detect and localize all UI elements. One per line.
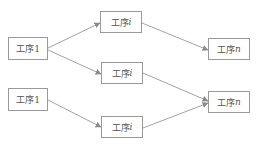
node-label-prefix: 工序 [112,67,130,80]
node-label-suffix: n [235,44,241,54]
arrow-e-to-f [48,100,101,127]
node-label-suffix: i [130,122,133,132]
node-label-suffix: 1 [34,44,40,54]
node-process-n-bottom: 工序n [208,91,250,113]
node-process-n-top: 工序n [208,38,250,60]
node-process-i-bottom: 工序i [101,116,143,138]
node-label-suffix: i [129,17,132,27]
arrow-f-to-g [143,103,208,128]
arrow-d-to-g [143,73,208,101]
node-process-1-bottom: 工序1 [8,88,48,111]
arrow-b-to-c [142,23,208,50]
node-label-prefix: 工序 [112,121,130,134]
node-process-i-top: 工序i [100,11,142,33]
node-label-prefix: 工序 [16,42,34,55]
node-process-1-top: 工序1 [8,37,48,60]
arrow-a-to-b [48,23,100,48]
node-label-prefix: 工序 [217,43,235,56]
node-label-suffix: i [130,68,133,78]
arrow-a-to-d [48,50,101,74]
node-label-prefix: 工序 [217,96,235,109]
node-label-prefix: 工序 [111,16,129,29]
node-label-suffix: 1 [34,95,40,105]
node-process-i-middle: 工序i [101,62,143,84]
node-label-suffix: n [235,97,241,107]
node-label-prefix: 工序 [16,93,34,106]
process-flow-diagram: 工序1 工序i 工序n 工序i 工序1 工序i 工序n [0,0,258,150]
